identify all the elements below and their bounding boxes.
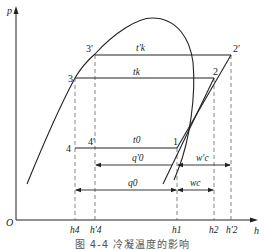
axes: p h O [6,5,259,236]
origin-label: O [6,217,13,228]
point-3-prime: 3′ [86,43,93,54]
h-axis-arrow-icon [250,218,258,223]
p-axis-label: p [6,5,12,16]
label-t0: t0 [133,135,141,145]
point-4: 4 [66,143,71,154]
figure-caption: 图 4-4 冷凝温度的影响 [0,236,265,250]
tick-h4-prime: h′4 [90,225,102,235]
h-axis-label: h [254,225,259,236]
dashed-guides [75,55,231,220]
tick-h4: h4 [70,225,80,235]
compression-line-1-2 [163,78,214,184]
p-axis-arrow-icon [14,6,19,14]
point-2: 2 [213,66,218,77]
tick-h2-prime: h′2 [226,225,238,235]
label-q0-prime: q′0 [132,153,144,163]
label-wc-prime: w′c [196,153,209,163]
saturation-dome [27,18,194,184]
point-1: 1 [173,136,178,147]
label-tk: tk [133,67,141,77]
h-tick-labels: h4 h′4 h1 h2 h′2 [70,225,238,235]
label-wc: wc [190,178,201,188]
label-q0: q0 [128,178,138,188]
tick-h2: h2 [209,225,219,235]
point-3: 3 [68,73,73,84]
ph-diagram: p h O 3′ 2′ 3 2 4 4′ 1 [0,0,265,250]
point-2-prime: 2′ [233,43,240,54]
dimension-arrows [76,165,230,190]
label-tk-prime: t′k [136,43,146,53]
compression-line-1-2prime [177,55,231,148]
line-labels: t′k tk t0 q′0 w′c q0 wc [128,43,209,188]
point-4-prime: 4′ [88,136,95,147]
tick-h1: h1 [172,225,182,235]
